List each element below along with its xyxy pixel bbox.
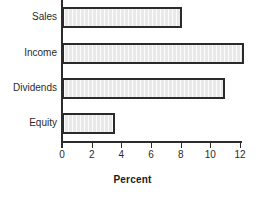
x-tick	[240, 143, 241, 148]
bar-sales	[62, 7, 182, 28]
bar-dividends	[62, 78, 225, 99]
bar-chart: Sales Income Dividends Equity 024681012 …	[0, 0, 265, 197]
x-tick-label: 2	[77, 149, 107, 161]
x-tick	[92, 143, 93, 148]
x-axis-title: Percent	[0, 174, 265, 185]
x-tick-label: 0	[47, 149, 77, 161]
category-label-dividends: Dividends	[0, 82, 57, 94]
x-tick	[151, 143, 152, 148]
category-label-equity: Equity	[0, 117, 57, 129]
x-tick-label: 10	[195, 149, 225, 161]
category-label-income: Income	[0, 47, 57, 59]
x-tick-label: 12	[225, 149, 255, 161]
x-tick	[210, 143, 211, 148]
bar-income	[62, 43, 244, 64]
x-tick-label: 4	[106, 149, 136, 161]
category-label-sales: Sales	[0, 11, 57, 23]
bar-equity	[62, 113, 115, 134]
x-tick	[181, 143, 182, 148]
x-tick-label: 8	[166, 149, 196, 161]
x-tick	[62, 143, 63, 148]
x-tick-label: 6	[136, 149, 166, 161]
x-tick	[121, 143, 122, 148]
